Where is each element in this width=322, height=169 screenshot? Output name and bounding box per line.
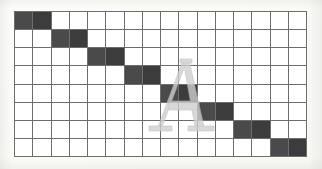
grid-cell-empty — [125, 85, 143, 103]
grid-cell-empty — [271, 12, 289, 30]
grid-cell-empty — [216, 66, 234, 84]
block-diagonal-grid — [14, 11, 307, 157]
grid-cell-empty — [106, 30, 124, 48]
grid-cell-empty — [252, 85, 270, 103]
grid-cell-empty — [161, 48, 179, 66]
grid-cell-empty — [125, 12, 143, 30]
grid-cell-empty — [33, 85, 51, 103]
grid-cell-empty — [271, 30, 289, 48]
grid-cell-empty — [234, 12, 252, 30]
grid-cell-filled — [271, 139, 289, 157]
grid-cell-empty — [271, 85, 289, 103]
grid-cell-empty — [179, 139, 197, 157]
figure-canvas — [0, 0, 322, 169]
grid-cell-empty — [70, 48, 88, 66]
grid-cell-empty — [179, 66, 197, 84]
grid-cell-empty — [106, 103, 124, 121]
grid-cell-filled — [125, 66, 143, 84]
grid-cell-empty — [161, 66, 179, 84]
grid-cell-filled — [289, 139, 307, 157]
grid-cell-empty — [70, 85, 88, 103]
grid-cell-empty — [179, 48, 197, 66]
grid-cell-empty — [161, 139, 179, 157]
grid-cell-empty — [179, 121, 197, 139]
grid-cell-empty — [88, 121, 106, 139]
grid-cell-empty — [289, 103, 307, 121]
grid-cell-empty — [70, 139, 88, 157]
grid-cell-filled — [106, 48, 124, 66]
grid-cell-empty — [33, 66, 51, 84]
grid-cell-empty — [252, 48, 270, 66]
grid-cell-empty — [234, 85, 252, 103]
grid-cell-empty — [106, 66, 124, 84]
grid-cell-filled — [52, 30, 70, 48]
grid-cell-empty — [143, 121, 161, 139]
grid-cell-empty — [15, 121, 33, 139]
grid-cell-empty — [143, 12, 161, 30]
grid-cell-empty — [198, 12, 216, 30]
grid-cell-empty — [70, 121, 88, 139]
grid-cell-empty — [143, 103, 161, 121]
grid-cell-empty — [252, 103, 270, 121]
grid-cell-empty — [234, 103, 252, 121]
grid-cell-empty — [161, 12, 179, 30]
grid-cell-empty — [125, 139, 143, 157]
grid-cell-empty — [15, 85, 33, 103]
grid-cell-empty — [234, 139, 252, 157]
grid-cell-empty — [252, 139, 270, 157]
grid-cell-empty — [15, 66, 33, 84]
grid-cell-empty — [216, 30, 234, 48]
grid-cell-filled — [179, 85, 197, 103]
grid-cell-empty — [289, 12, 307, 30]
grid-cell-empty — [289, 48, 307, 66]
grid-cell-filled — [252, 121, 270, 139]
grid-cell-filled — [216, 103, 234, 121]
grid-cell-empty — [106, 139, 124, 157]
grid-cell-empty — [15, 103, 33, 121]
grid-cell-empty — [88, 85, 106, 103]
grid-cell-empty — [33, 48, 51, 66]
grid-cell-empty — [52, 139, 70, 157]
grid-cell-empty — [161, 103, 179, 121]
grid-cell-empty — [143, 85, 161, 103]
grid-cell-empty — [143, 30, 161, 48]
grid-cell-empty — [15, 139, 33, 157]
grid-cell-empty — [52, 48, 70, 66]
grid-cell-empty — [252, 12, 270, 30]
grid-cell-empty — [33, 139, 51, 157]
grid-cell-empty — [70, 103, 88, 121]
grid-cell-empty — [179, 30, 197, 48]
grid-cell-empty — [234, 66, 252, 84]
grid-cell-filled — [234, 121, 252, 139]
grid-cell-empty — [143, 48, 161, 66]
grid-cell-empty — [289, 85, 307, 103]
grid-cell-empty — [33, 30, 51, 48]
grid-cell-empty — [271, 103, 289, 121]
grid-cell-empty — [198, 66, 216, 84]
grid-cell-empty — [161, 30, 179, 48]
grid-cell-empty — [88, 139, 106, 157]
grid-cell-empty — [179, 12, 197, 30]
grid-cell-filled — [88, 48, 106, 66]
grid-cell-empty — [106, 85, 124, 103]
grid-cell-empty — [198, 121, 216, 139]
grid-cell-empty — [216, 139, 234, 157]
grid-cell-empty — [125, 121, 143, 139]
grid-cell-empty — [198, 30, 216, 48]
grid-cell-empty — [125, 30, 143, 48]
grid-cell-empty — [161, 121, 179, 139]
grid-cell-empty — [88, 12, 106, 30]
grid-cell-empty — [88, 103, 106, 121]
grid-cell-empty — [88, 66, 106, 84]
grid-cell-empty — [52, 121, 70, 139]
grid-cell-filled — [161, 85, 179, 103]
grid-cell-empty — [106, 121, 124, 139]
grid-cell-empty — [198, 139, 216, 157]
grid-cell-empty — [216, 85, 234, 103]
grid-cell-empty — [252, 66, 270, 84]
grid-cell-empty — [289, 66, 307, 84]
grid-cell-empty — [106, 12, 124, 30]
grid-cell-empty — [179, 103, 197, 121]
grid-cell-empty — [271, 121, 289, 139]
grid-cell-empty — [289, 30, 307, 48]
